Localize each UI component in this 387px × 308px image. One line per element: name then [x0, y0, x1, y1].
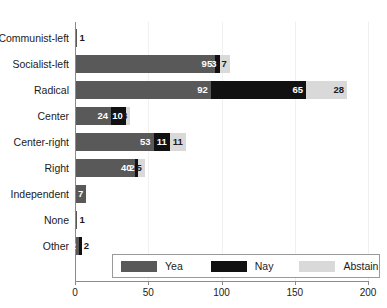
category-label: Radical — [0, 77, 69, 103]
bar-row: Radical926528 — [0, 77, 387, 103]
bar-segment-yea: 53 — [76, 133, 154, 151]
bar-track: 24103 — [76, 107, 130, 125]
bar-segment-nay: 65 — [211, 81, 306, 99]
bar-value-label: 7 — [222, 59, 230, 69]
bar-track: 1 — [76, 211, 77, 229]
bar-segment-abs: 7 — [220, 55, 230, 73]
bar-row: Right4025 — [0, 155, 387, 181]
legend-label: Nay — [255, 260, 274, 272]
x-tick-label: 0 — [72, 287, 78, 298]
bar-segment-yea: 1 — [76, 211, 77, 229]
bar-value-label: 3 — [211, 59, 219, 69]
bar-track: 9537 — [76, 55, 230, 73]
bar-segment-abs: 5 — [138, 159, 145, 177]
bar-row: Independent7 — [0, 181, 387, 207]
bar-value-label: 2 — [82, 241, 89, 251]
bar-track: 926528 — [76, 81, 347, 99]
bar-row: Socialist-left9537 — [0, 51, 387, 77]
bar-segment-nay: 2 — [79, 237, 82, 255]
bar-value-label: 1 — [77, 33, 84, 43]
bar-segment-abs: 3 — [126, 107, 130, 125]
bar-segment-yea: 7 — [76, 185, 86, 203]
bar-value-label: 28 — [333, 85, 347, 95]
legend-swatch-nay-icon — [211, 261, 247, 272]
category-label: Independent — [0, 181, 69, 207]
bar-segment-abs: 28 — [306, 81, 347, 99]
bar-row: Center-right531111 — [0, 129, 387, 155]
bar-value-label: 3 — [122, 111, 130, 121]
bar-value-label: 24 — [98, 111, 112, 121]
x-tick — [295, 281, 296, 285]
bar-value-label: 5 — [137, 163, 145, 173]
bar-row: None1 — [0, 207, 387, 233]
bar-track: 7 — [76, 185, 86, 203]
legend-swatch-yea-icon — [121, 261, 157, 272]
bar-value-label: 7 — [78, 189, 86, 199]
x-tick — [148, 281, 149, 285]
bar-value-label: 1 — [77, 215, 84, 225]
bar-track: 4025 — [76, 159, 145, 177]
category-label: Other — [0, 233, 69, 259]
bar-segment-nay: 11 — [154, 133, 170, 151]
legend-item-abs[interactable]: Abstain — [299, 260, 378, 272]
bar-value-label: 65 — [292, 85, 306, 95]
bar-value-label: 11 — [157, 137, 170, 147]
x-tick — [368, 281, 369, 285]
bar-segment-yea: 92 — [76, 81, 211, 99]
x-tick — [75, 281, 76, 285]
x-tick-label: 50 — [143, 287, 154, 298]
legend-item-nay[interactable]: Nay — [211, 260, 274, 272]
bar-segment-yea: 95 — [76, 55, 215, 73]
bar-segment-abs: 11 — [170, 133, 186, 151]
bar-value-label: 2 — [71, 241, 79, 251]
bar-track: 1 — [76, 29, 77, 47]
bar-track: 531111 — [76, 133, 186, 151]
x-tick — [222, 281, 223, 285]
category-label: Center — [0, 103, 69, 129]
x-tick-label: 200 — [360, 287, 377, 298]
bar-value-label: 11 — [173, 137, 186, 147]
bar-value-label: 92 — [197, 85, 211, 95]
bar-row: Center24103 — [0, 103, 387, 129]
bar-value-label: 53 — [140, 137, 154, 147]
bar-segment-yea: 40 — [76, 159, 135, 177]
bar-segment-yea: 1 — [76, 29, 77, 47]
legend-swatch-abs-icon — [299, 261, 335, 272]
category-label: None — [0, 207, 69, 233]
legend-label: Abstain — [343, 260, 378, 272]
stacked-bar-chart: Communist-left1Socialist-left9537Radical… — [0, 0, 387, 308]
category-label: Socialist-left — [0, 51, 69, 77]
bar-row: Communist-left1 — [0, 25, 387, 51]
category-label: Right — [0, 155, 69, 181]
x-tick-label: 150 — [286, 287, 303, 298]
legend-item-yea[interactable]: Yea — [121, 260, 183, 272]
category-label: Communist-left — [0, 25, 69, 51]
bar-track: 22 — [76, 237, 82, 255]
chart-legend: YeaNayAbstain — [112, 254, 380, 278]
bar-segment-yea: 24 — [76, 107, 111, 125]
x-tick-label: 100 — [213, 287, 230, 298]
legend-label: Yea — [165, 260, 183, 272]
category-label: Center-right — [0, 129, 69, 155]
